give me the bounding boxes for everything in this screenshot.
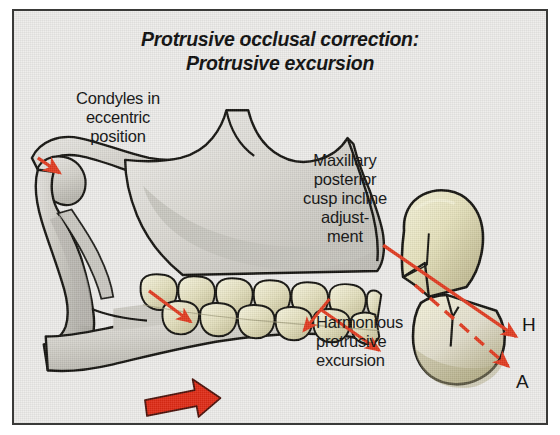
label-condyles-eccentric-position: Condyles in eccentric position (28, 89, 208, 146)
upper-cusp-shape (402, 190, 483, 297)
figure-title: Protrusive occlusal correction: Protrusi… (14, 27, 546, 75)
axis-letter-h: H (522, 314, 536, 336)
axis-letter-a: A (516, 371, 529, 393)
title-line-2: Protrusive excursion (14, 51, 546, 75)
label-maxillary-cusp-incline-adjustment: Maxillary posterior cusp incline adjust-… (296, 151, 394, 246)
figure-page: Protrusive occlusal correction: Protrusi… (0, 0, 560, 435)
title-line-1: Protrusive occlusal correction: (14, 27, 546, 51)
lower-tooth-2 (200, 303, 237, 336)
figure-frame: Protrusive occlusal correction: Protrusi… (12, 9, 548, 425)
mandible-protrusion-block-arrow (145, 379, 220, 417)
label-harmonious-protrusive-excursion: Harmonious protrusive excursion (316, 313, 446, 370)
